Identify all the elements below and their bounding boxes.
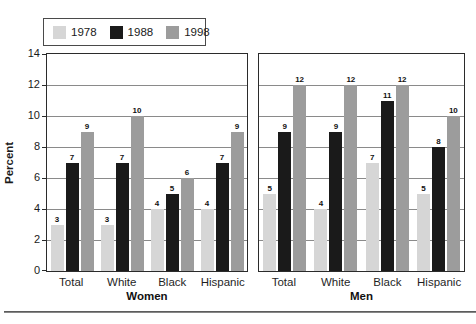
bar-group-hispanic: 479: [197, 122, 247, 272]
bars-area: 3793710456479: [47, 54, 247, 271]
y-axis-tick-4: [42, 209, 46, 210]
bar-value-label: 9: [282, 122, 286, 131]
bar-group-black: 456: [147, 168, 197, 271]
bar-value-label: 12: [346, 75, 355, 84]
bar-1998-black: 6: [181, 168, 194, 271]
legend-item-1988: 1988: [110, 26, 154, 39]
bar-group-hispanic: 5810: [413, 106, 464, 271]
category-label-white: White: [310, 276, 362, 288]
bar-rect: [51, 225, 64, 272]
y-axis: 02468101214: [16, 53, 42, 272]
bar-group-total: 5912: [259, 75, 310, 271]
legend-item-1978: 1978: [53, 26, 97, 39]
bar-rect: [201, 209, 214, 271]
bar-value-label: 9: [235, 122, 239, 131]
legend: 197819881998: [43, 18, 206, 46]
category-label-hispanic: Hispanic: [198, 276, 249, 288]
y-tick-label-0: 0: [16, 265, 40, 276]
bar-value-label: 5: [421, 184, 425, 193]
bar-1978-total: 5: [263, 184, 276, 272]
legend-item-1998: 1998: [166, 26, 210, 39]
figure: 197819881998 Percent 02468101214 3793710…: [0, 0, 476, 324]
category-row-men: TotalWhiteBlackHispanic: [258, 276, 465, 288]
panel-men: 59124912711125810: [258, 53, 465, 272]
bar-value-label: 10: [133, 106, 142, 115]
bar-1978-hispanic: 5: [417, 184, 430, 272]
bar-value-label: 7: [120, 153, 124, 162]
bar-1978-hispanic: 4: [201, 199, 214, 271]
bar-rect: [278, 132, 291, 272]
category-label-hispanic: Hispanic: [413, 276, 465, 288]
category-label-total: Total: [258, 276, 310, 288]
bar-rect: [231, 132, 244, 272]
bar-value-label: 10: [449, 106, 458, 115]
bar-1998-total: 12: [293, 75, 306, 271]
bar-1978-white: 3: [101, 215, 114, 272]
legend-label: 1988: [128, 26, 154, 38]
y-tick-label-6: 6: [16, 172, 40, 183]
bar-1988-hispanic: 7: [216, 153, 229, 272]
bar-rect: [216, 163, 229, 272]
bar-1988-hispanic: 8: [432, 137, 445, 271]
legend-label: 1978: [71, 26, 97, 38]
bar-group-white: 3710: [97, 106, 147, 271]
bar-rect: [432, 147, 445, 271]
legend-swatch-1978: [53, 26, 66, 39]
bar-group-total: 379: [47, 122, 97, 272]
bar-1978-black: 4: [151, 199, 164, 271]
bar-value-label: 4: [205, 199, 209, 208]
bar-1988-white: 9: [329, 122, 342, 272]
bar-group-white: 4912: [310, 75, 361, 271]
bar-rect: [66, 163, 79, 272]
bar-rect: [116, 163, 129, 272]
category-label-total: Total: [46, 276, 97, 288]
y-axis-tick-6: [42, 178, 46, 179]
y-axis-tick-12: [42, 85, 46, 86]
bar-1998-total: 9: [81, 122, 94, 272]
y-tick-label-4: 4: [16, 203, 40, 214]
category-label-white: White: [97, 276, 148, 288]
bar-value-label: 12: [295, 75, 304, 84]
y-axis-title: Percent: [1, 53, 16, 272]
bar-value-label: 12: [398, 75, 407, 84]
y-tick-label-14: 14: [16, 48, 40, 59]
bar-rect: [447, 116, 460, 271]
bar-value-label: 4: [319, 199, 323, 208]
bars-area: 59124912711125810: [259, 54, 464, 271]
category-label-black: Black: [147, 276, 198, 288]
y-axis-tick-2: [42, 240, 46, 241]
bar-value-label: 3: [55, 215, 59, 224]
y-tick-label-10: 10: [16, 110, 40, 121]
legend-swatch-1988: [110, 26, 123, 39]
legend-label: 1998: [184, 26, 210, 38]
legend-swatch-1998: [166, 26, 179, 39]
bar-value-label: 8: [436, 137, 440, 146]
y-tick-label-12: 12: [16, 79, 40, 90]
bar-rect: [101, 225, 114, 272]
bar-1988-black: 11: [381, 91, 394, 272]
bar-value-label: 4: [155, 199, 159, 208]
bar-rect: [417, 194, 430, 272]
bar-value-label: 9: [85, 122, 89, 131]
bar-1988-total: 7: [66, 153, 79, 272]
bar-rect: [329, 132, 342, 272]
bar-1998-black: 12: [396, 75, 409, 271]
bar-rect: [396, 85, 409, 271]
y-axis-tick-8: [42, 147, 46, 148]
bar-rect: [151, 209, 164, 271]
bar-value-label: 11: [383, 91, 391, 100]
bar-value-label: 7: [220, 153, 224, 162]
bar-group-black: 71112: [362, 75, 413, 271]
category-label-black: Black: [362, 276, 414, 288]
axis-title-men: Men: [258, 290, 465, 302]
bar-1998-hispanic: 9: [231, 122, 244, 272]
panel-women: 3793710456479: [46, 53, 248, 272]
bottom-rule: [4, 311, 476, 313]
bar-value-label: 5: [267, 184, 271, 193]
bar-rect: [314, 209, 327, 271]
bar-1998-hispanic: 10: [447, 106, 460, 271]
bar-rect: [381, 101, 394, 272]
bar-rect: [293, 85, 306, 271]
axis-title-women: Women: [46, 290, 248, 302]
bar-1978-white: 4: [314, 199, 327, 271]
